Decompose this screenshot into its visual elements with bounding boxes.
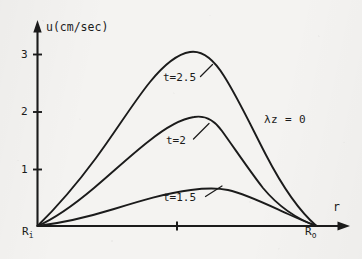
leader-lines-group (194, 65, 223, 197)
parameter-annotation: λz = 0 (264, 113, 306, 126)
curve-label-t-2p5: t=2.5 (163, 71, 196, 84)
x-axis-outer-radius-label: Ro (305, 225, 317, 240)
x-axis-inner-radius-label: Ri (22, 225, 34, 240)
y-axis-label: u(cm/sec) (46, 20, 108, 34)
curve-label-t-1p5: t=1.5 (163, 191, 196, 204)
inner-radius-base: R (22, 225, 29, 238)
x-axis-arrowhead (338, 222, 351, 231)
outer-radius-base: R (305, 225, 312, 238)
curve-label-t-2: t=2 (166, 134, 186, 147)
y-tick-label-3: 3 (21, 48, 28, 61)
y-tick-label-1: 1 (21, 163, 28, 176)
plot-canvas (0, 0, 362, 259)
outer-radius-subscript: o (312, 231, 317, 240)
y-tick-label-2: 2 (21, 105, 28, 118)
leader-line-t-2 (194, 124, 210, 140)
leader-line-t-1p5 (206, 186, 223, 197)
velocity-profile-figure: u(cm/sec) 3 2 1 r Ri Ro t=2.5 t=2 t=1.5 … (0, 0, 362, 259)
x-axis-label: r (333, 200, 340, 214)
inner-radius-subscript: i (29, 231, 34, 240)
leader-line-t-2p5 (201, 65, 213, 77)
y-axis-arrowhead (33, 20, 41, 33)
